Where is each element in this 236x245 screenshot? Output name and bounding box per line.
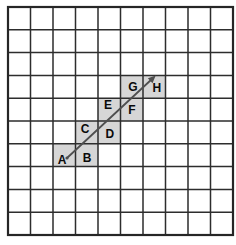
cell-label-b: B	[83, 151, 92, 165]
cell-label-a: A	[58, 153, 67, 167]
cell-label-f: F	[128, 103, 135, 117]
cell-label-h: H	[153, 81, 162, 95]
worksheet-figure: ABCDEFGH	[0, 0, 236, 245]
cell-label-c: C	[81, 122, 90, 136]
cell-label-e: E	[104, 98, 112, 112]
cell-label-g: G	[128, 80, 137, 94]
cell-label-d: D	[106, 127, 115, 141]
grid-diagram: ABCDEFGH	[0, 0, 236, 245]
